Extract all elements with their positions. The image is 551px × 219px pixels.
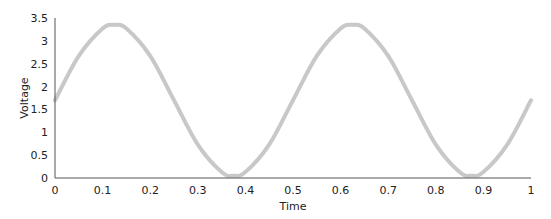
y-tick-label: 0 [41, 172, 48, 185]
voltage-time-chart: 00.511.522.533.5 00.10.20.30.40.50.60.70… [0, 0, 551, 219]
x-tick-label: 0 [52, 184, 59, 197]
x-tick-label: 0.8 [427, 184, 445, 197]
y-tick-label: 0.5 [31, 149, 49, 162]
voltage-series-line [55, 25, 531, 176]
x-tick-label: 0.1 [94, 184, 112, 197]
y-tick-label: 2.5 [31, 58, 49, 71]
y-tick-label: 3.5 [31, 12, 49, 25]
x-tick-label: 0.6 [332, 184, 350, 197]
x-axis-tick-labels: 00.10.20.30.40.50.60.70.80.91 [52, 184, 535, 197]
y-tick-label: 1 [41, 126, 48, 139]
x-tick-label: 0.9 [475, 184, 493, 197]
y-axis-title: Voltage [18, 77, 31, 118]
x-tick-label: 0.5 [284, 184, 302, 197]
x-axis-title: Time [279, 200, 307, 213]
x-tick-label: 1 [528, 184, 535, 197]
y-axis-tick-labels: 00.511.522.533.5 [31, 12, 49, 185]
x-tick-label: 0.2 [141, 184, 159, 197]
y-tick-label: 2 [41, 81, 48, 94]
y-tick-label: 3 [41, 35, 48, 48]
x-tick-label: 0.3 [189, 184, 207, 197]
x-tick-label: 0.7 [379, 184, 397, 197]
y-tick-label: 1.5 [31, 103, 49, 116]
x-tick-label: 0.4 [237, 184, 255, 197]
